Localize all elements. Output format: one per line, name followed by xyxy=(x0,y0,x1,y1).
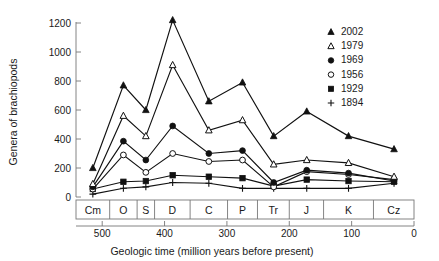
data-point-marker xyxy=(143,169,149,175)
legend-item-1956: 1956 xyxy=(328,69,363,80)
period-label-cz: Cz xyxy=(387,204,400,216)
data-point-marker xyxy=(239,185,246,192)
data-point-marker xyxy=(170,123,176,129)
data-point-marker xyxy=(328,72,334,78)
legend-label-1969: 1969 xyxy=(341,54,364,65)
data-point-marker xyxy=(303,156,310,162)
brachiopod-diversity-chart: 020040060080010001200 5004003002001000 C… xyxy=(0,0,439,261)
legend-item-1979: 1979 xyxy=(328,40,364,51)
data-point-marker xyxy=(205,180,212,187)
legend-label-2002: 2002 xyxy=(341,26,364,37)
x-tick-label: 0 xyxy=(411,228,417,239)
y-tick-label: 200 xyxy=(54,163,71,174)
y-tick-label: 1000 xyxy=(49,47,72,58)
data-point-marker xyxy=(271,180,277,186)
data-point-marker xyxy=(206,159,212,165)
data-point-marker xyxy=(303,185,310,192)
x-axis: 5004003002001000 xyxy=(76,221,417,239)
period-band-strip: CmOSDCPTrJKCz xyxy=(76,200,414,219)
data-point-marker xyxy=(90,164,97,170)
legend-item-1929: 1929 xyxy=(328,83,363,94)
data-point-marker xyxy=(345,133,352,139)
data-point-marker xyxy=(169,17,176,23)
y-tick-label: 0 xyxy=(65,192,71,203)
y-axis: 020040060080010001200 xyxy=(49,18,81,203)
data-point-marker xyxy=(328,29,334,35)
x-axis-title: Geologic time (million years before pres… xyxy=(110,245,313,257)
data-point-marker xyxy=(328,43,334,49)
x-tick-label: 100 xyxy=(343,228,360,239)
data-point-marker xyxy=(240,175,245,180)
x-tick-label: 400 xyxy=(156,228,173,239)
x-tick-label: 200 xyxy=(281,228,298,239)
data-point-marker xyxy=(270,133,277,139)
legend-item-1969: 1969 xyxy=(328,54,363,65)
y-axis-title: Genera of brachiopods xyxy=(7,59,19,166)
data-point-marker xyxy=(239,79,246,85)
data-point-marker xyxy=(240,148,246,154)
data-point-marker xyxy=(121,179,126,184)
period-label-s: S xyxy=(142,204,149,216)
y-tick-label: 400 xyxy=(54,134,71,145)
data-point-marker xyxy=(328,86,333,91)
data-point-marker xyxy=(120,152,126,158)
data-point-marker xyxy=(206,151,212,157)
period-label-p: P xyxy=(239,204,246,216)
data-point-marker xyxy=(120,138,126,144)
period-label-cm: Cm xyxy=(85,204,102,216)
period-label-tr: Tr xyxy=(269,204,279,216)
data-point-marker xyxy=(240,157,246,163)
data-point-marker xyxy=(328,58,334,64)
legend-item-1894: 1894 xyxy=(328,97,364,108)
data-point-marker xyxy=(169,61,176,67)
data-point-marker xyxy=(303,108,310,114)
data-point-marker xyxy=(239,117,246,123)
data-point-marker xyxy=(304,167,310,173)
data-point-marker xyxy=(206,174,211,179)
data-point-marker xyxy=(170,151,176,157)
x-tick-label: 300 xyxy=(219,228,236,239)
data-point-marker xyxy=(143,157,149,163)
data-point-marker xyxy=(328,100,334,106)
x-tick-label: 500 xyxy=(94,228,111,239)
y-tick-label: 1200 xyxy=(49,18,72,29)
period-label-j: J xyxy=(304,204,309,216)
y-tick-label: 600 xyxy=(54,105,71,116)
data-point-marker xyxy=(169,179,176,186)
legend-item-2002: 2002 xyxy=(328,26,364,37)
legend-label-1929: 1929 xyxy=(341,83,364,94)
data-point-marker xyxy=(170,173,175,178)
y-tick-label: 800 xyxy=(54,76,71,87)
data-point-marker xyxy=(120,185,127,192)
period-label-c: C xyxy=(205,204,213,216)
period-label-k: K xyxy=(345,204,352,216)
data-point-marker xyxy=(346,178,351,183)
chart-legend: 200219791969195619291894 xyxy=(328,26,364,108)
data-point-marker xyxy=(143,178,148,183)
data-point-marker xyxy=(304,177,309,182)
data-point-marker xyxy=(120,112,127,118)
data-point-marker xyxy=(346,170,352,176)
period-label-o: O xyxy=(119,204,127,216)
data-point-marker xyxy=(345,185,352,192)
legend-label-1979: 1979 xyxy=(341,40,364,51)
data-point-marker xyxy=(206,98,213,104)
data-point-marker xyxy=(120,82,127,88)
period-label-d: D xyxy=(169,204,177,216)
data-point-marker xyxy=(142,183,149,190)
legend-label-1956: 1956 xyxy=(341,69,364,80)
legend-label-1894: 1894 xyxy=(341,97,364,108)
chart-canvas: 020040060080010001200 5004003002001000 C… xyxy=(0,0,439,261)
